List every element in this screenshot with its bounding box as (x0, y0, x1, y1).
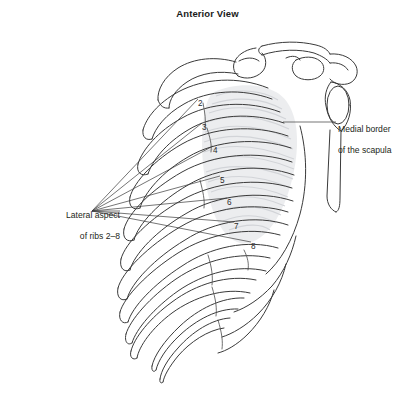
callout-lateral-aspect-line-2: of ribs 2–8 (8, 231, 120, 242)
rib-number-3: 3 (202, 124, 207, 132)
callout-lateral-aspect-line-1: Lateral aspect (8, 210, 120, 221)
figure-title: Anterior View (0, 8, 415, 19)
ribcage-scapula-illustration (0, 0, 415, 396)
callout-medial-border-of-scapula: Medial border of the scapula (338, 113, 392, 166)
rib-12-floating (160, 318, 230, 383)
rib-number-2: 2 (198, 100, 203, 108)
rib-number-8: 8 (251, 243, 256, 251)
callout-lateral-aspect-of-ribs: Lateral aspect of ribs 2–8 (8, 199, 120, 252)
rib-10 (130, 278, 256, 359)
rib-number-5: 5 (220, 177, 225, 185)
anatomical-figure: Anterior View (0, 0, 415, 396)
callout-medial-border-line-2: of the scapula (338, 145, 392, 156)
rib-11-floating (152, 298, 244, 371)
sternum (234, 48, 266, 78)
rib-number-7: 7 (234, 223, 239, 231)
callout-medial-border-line-1: Medial border (338, 124, 392, 135)
rib-number-6: 6 (227, 199, 232, 207)
rib-number-4: 4 (213, 147, 218, 155)
